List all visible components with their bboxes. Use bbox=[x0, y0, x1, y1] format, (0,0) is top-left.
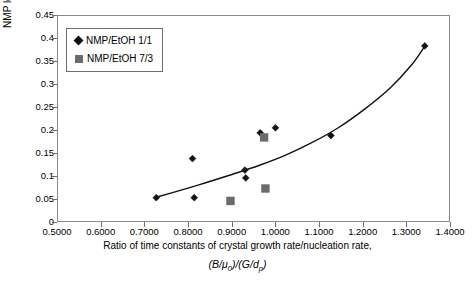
y-tick-label: 0.35 bbox=[20, 56, 54, 66]
data-point-square bbox=[226, 197, 234, 205]
y-tick-mark bbox=[52, 15, 57, 16]
y-tick-mark bbox=[52, 176, 57, 177]
data-point-square bbox=[261, 184, 269, 192]
x-tick-mark bbox=[319, 222, 320, 227]
y-tick-label: 0.4 bbox=[20, 33, 54, 43]
x-tick-label: 1.2000 bbox=[339, 226, 387, 237]
y-tick-label: 0.3 bbox=[20, 79, 54, 89]
data-point-diamond bbox=[241, 167, 248, 174]
x-tick-label: 0.8000 bbox=[164, 226, 212, 237]
x-axis-formula: (B/μ0)/(G/dp) bbox=[0, 258, 475, 273]
legend-item-0: NMP/EtOH 1/1 bbox=[74, 33, 153, 48]
square-marker-icon bbox=[75, 55, 83, 63]
y-tick-label: 0.15 bbox=[20, 148, 54, 158]
trendline bbox=[155, 46, 424, 197]
chart-figure: NMP level, wt% 00.050.10.150.20.250.30.3… bbox=[0, 0, 475, 282]
x-tick-mark bbox=[144, 222, 145, 227]
data-point-diamond bbox=[191, 194, 198, 201]
legend-item-1: NMP/EtOH 7/3 bbox=[74, 51, 153, 66]
y-tick-mark bbox=[52, 61, 57, 62]
y-tick-mark bbox=[52, 84, 57, 85]
y-tick-label: 0.2 bbox=[20, 125, 54, 135]
y-tick-mark bbox=[52, 153, 57, 154]
y-tick-mark bbox=[52, 38, 57, 39]
legend-label: NMP/EtOH 1/1 bbox=[86, 35, 152, 46]
data-point-diamond bbox=[189, 155, 196, 162]
data-point-square bbox=[260, 133, 268, 141]
data-point-diamond bbox=[153, 194, 160, 201]
x-tick-mark bbox=[363, 222, 364, 227]
x-tick-label: 1.0000 bbox=[251, 226, 299, 237]
y-tick-label: 0.1 bbox=[20, 171, 54, 181]
x-tick-label: 0.9000 bbox=[208, 226, 256, 237]
x-tick-label: 1.4000 bbox=[426, 226, 474, 237]
diamond-marker-icon bbox=[74, 36, 84, 46]
x-tick-label: 0.6000 bbox=[77, 226, 125, 237]
y-tick-mark bbox=[52, 222, 57, 223]
series-0 bbox=[153, 43, 428, 202]
y-tick-mark bbox=[52, 107, 57, 108]
x-tick-label: 1.3000 bbox=[382, 226, 430, 237]
x-tick-mark bbox=[450, 222, 451, 227]
x-tick-label: 0.5000 bbox=[33, 226, 81, 237]
x-tick-mark bbox=[406, 222, 407, 227]
y-tick-mark bbox=[52, 199, 57, 200]
data-point-diamond bbox=[272, 124, 279, 131]
x-tick-mark bbox=[101, 222, 102, 227]
legend: NMP/EtOH 1/1 NMP/EtOH 7/3 bbox=[66, 28, 163, 72]
y-tick-label: 0.05 bbox=[20, 194, 54, 204]
x-tick-label: 0.7000 bbox=[120, 226, 168, 237]
y-tick-mark bbox=[52, 130, 57, 131]
x-tick-mark bbox=[232, 222, 233, 227]
x-tick-mark bbox=[275, 222, 276, 227]
data-point-diamond bbox=[421, 43, 428, 50]
y-tick-label: 0.25 bbox=[20, 102, 54, 112]
x-axis-tick-labels: 0.50000.60000.70000.80000.90001.00001.10… bbox=[0, 226, 475, 240]
data-point-diamond bbox=[242, 175, 249, 182]
x-tick-label: 1.1000 bbox=[295, 226, 343, 237]
legend-label: NMP/EtOH 7/3 bbox=[87, 53, 153, 64]
x-tick-mark bbox=[188, 222, 189, 227]
y-axis-title: NMP level, wt% bbox=[0, 0, 16, 68]
y-tick-label: 0.45 bbox=[20, 10, 54, 20]
x-axis-title: Ratio of time constants of crystal growt… bbox=[0, 240, 475, 251]
